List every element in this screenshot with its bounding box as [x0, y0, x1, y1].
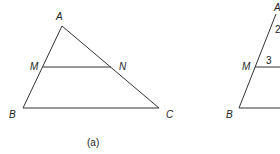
vertex-label-b: B [9, 109, 16, 120]
vertex-label-m: M [30, 61, 39, 72]
vertex-label-a: A [55, 11, 63, 22]
figure-caption-a: (a) [87, 137, 99, 148]
angle-label-3: 3 [266, 55, 272, 66]
geometry-diagram: A M N B C (a) A M B 2 3 [0, 0, 280, 154]
vertex-label-a-b: A [273, 2, 280, 13]
figure-b: A M B 2 3 [226, 2, 280, 120]
vertex-label-c: C [166, 109, 174, 120]
vertex-label-n: N [119, 61, 127, 72]
figure-a: A M N B C (a) [9, 11, 174, 148]
angle-label-2: 2 [275, 24, 280, 35]
vertex-label-b-b: B [226, 109, 233, 120]
vertex-label-m-b: M [242, 61, 251, 72]
